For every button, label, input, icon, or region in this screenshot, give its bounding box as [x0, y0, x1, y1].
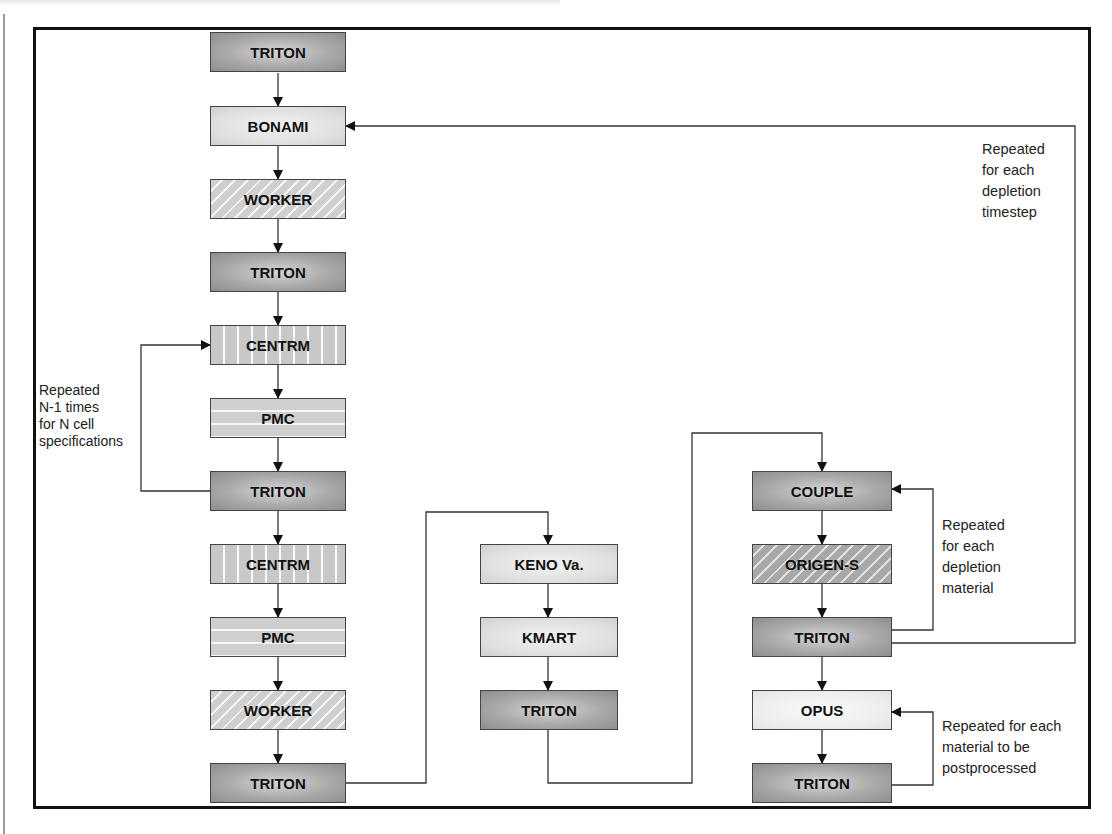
- node-label: BONAMI: [248, 118, 309, 135]
- node-triton-1: TRITON: [210, 32, 346, 72]
- node-bonami: BONAMI: [210, 106, 346, 146]
- note-line: for N cell: [39, 416, 123, 433]
- node-label: TRITON: [250, 775, 306, 792]
- node-label: TRITON: [794, 629, 850, 646]
- note-line: for each: [982, 160, 1045, 181]
- node-label: PMC: [261, 410, 294, 427]
- note-line: Repeated for each: [942, 716, 1061, 737]
- note-line: postprocessed: [942, 758, 1061, 779]
- node-label: KMART: [522, 629, 576, 646]
- node-label: KENO Va.: [514, 556, 583, 573]
- node-couple: COUPLE: [752, 471, 892, 511]
- note-timestep-loop: Repeated for each depletion timestep: [982, 139, 1045, 223]
- note-line: N-1 times: [39, 399, 123, 416]
- node-triton-3: TRITON: [210, 471, 346, 511]
- note-line: depletion: [942, 557, 1005, 578]
- node-label: OPUS: [801, 702, 844, 719]
- node-keno-va: KENO Va.: [480, 544, 618, 584]
- node-label: TRITON: [794, 775, 850, 792]
- node-label: TRITON: [250, 44, 306, 61]
- node-label: TRITON: [521, 702, 577, 719]
- node-pmc-1: PMC: [210, 398, 346, 438]
- note-postprocess-loop: Repeated for each material to be postpro…: [942, 716, 1061, 779]
- note-line: material: [942, 578, 1005, 599]
- node-origen-s: ORIGEN-S: [752, 544, 892, 584]
- node-pmc-2: PMC: [210, 617, 346, 657]
- node-triton-5: TRITON: [480, 690, 618, 730]
- node-worker-2: WORKER: [210, 690, 346, 730]
- node-label: COUPLE: [791, 483, 854, 500]
- node-opus: OPUS: [752, 690, 892, 730]
- note-line: Repeated: [942, 515, 1005, 536]
- node-triton-4: TRITON: [210, 763, 346, 803]
- node-label: TRITON: [250, 483, 306, 500]
- note-line: timestep: [982, 202, 1045, 223]
- node-label: TRITON: [250, 264, 306, 281]
- node-label: CENTRM: [246, 337, 310, 354]
- note-material-loop: Repeated for each depletion material: [942, 515, 1005, 599]
- note-cell-loop: Repeated N-1 times for N cell specificat…: [39, 382, 123, 450]
- node-centrm-2: CENTRM: [210, 544, 346, 584]
- node-label: ORIGEN-S: [785, 556, 859, 573]
- node-triton-7: TRITON: [752, 763, 892, 803]
- node-label: WORKER: [244, 702, 312, 719]
- node-label: CENTRM: [246, 556, 310, 573]
- note-line: material to be: [942, 737, 1061, 758]
- note-line: Repeated: [982, 139, 1045, 160]
- node-triton-2: TRITON: [210, 252, 346, 292]
- node-triton-6: TRITON: [752, 617, 892, 657]
- note-line: for each: [942, 536, 1005, 557]
- node-kmart: KMART: [480, 617, 618, 657]
- node-label: PMC: [261, 629, 294, 646]
- note-line: specifications: [39, 433, 123, 450]
- node-label: WORKER: [244, 191, 312, 208]
- note-line: Repeated: [39, 382, 123, 399]
- node-worker-1: WORKER: [210, 179, 346, 219]
- note-line: depletion: [982, 181, 1045, 202]
- node-centrm-1: CENTRM: [210, 325, 346, 365]
